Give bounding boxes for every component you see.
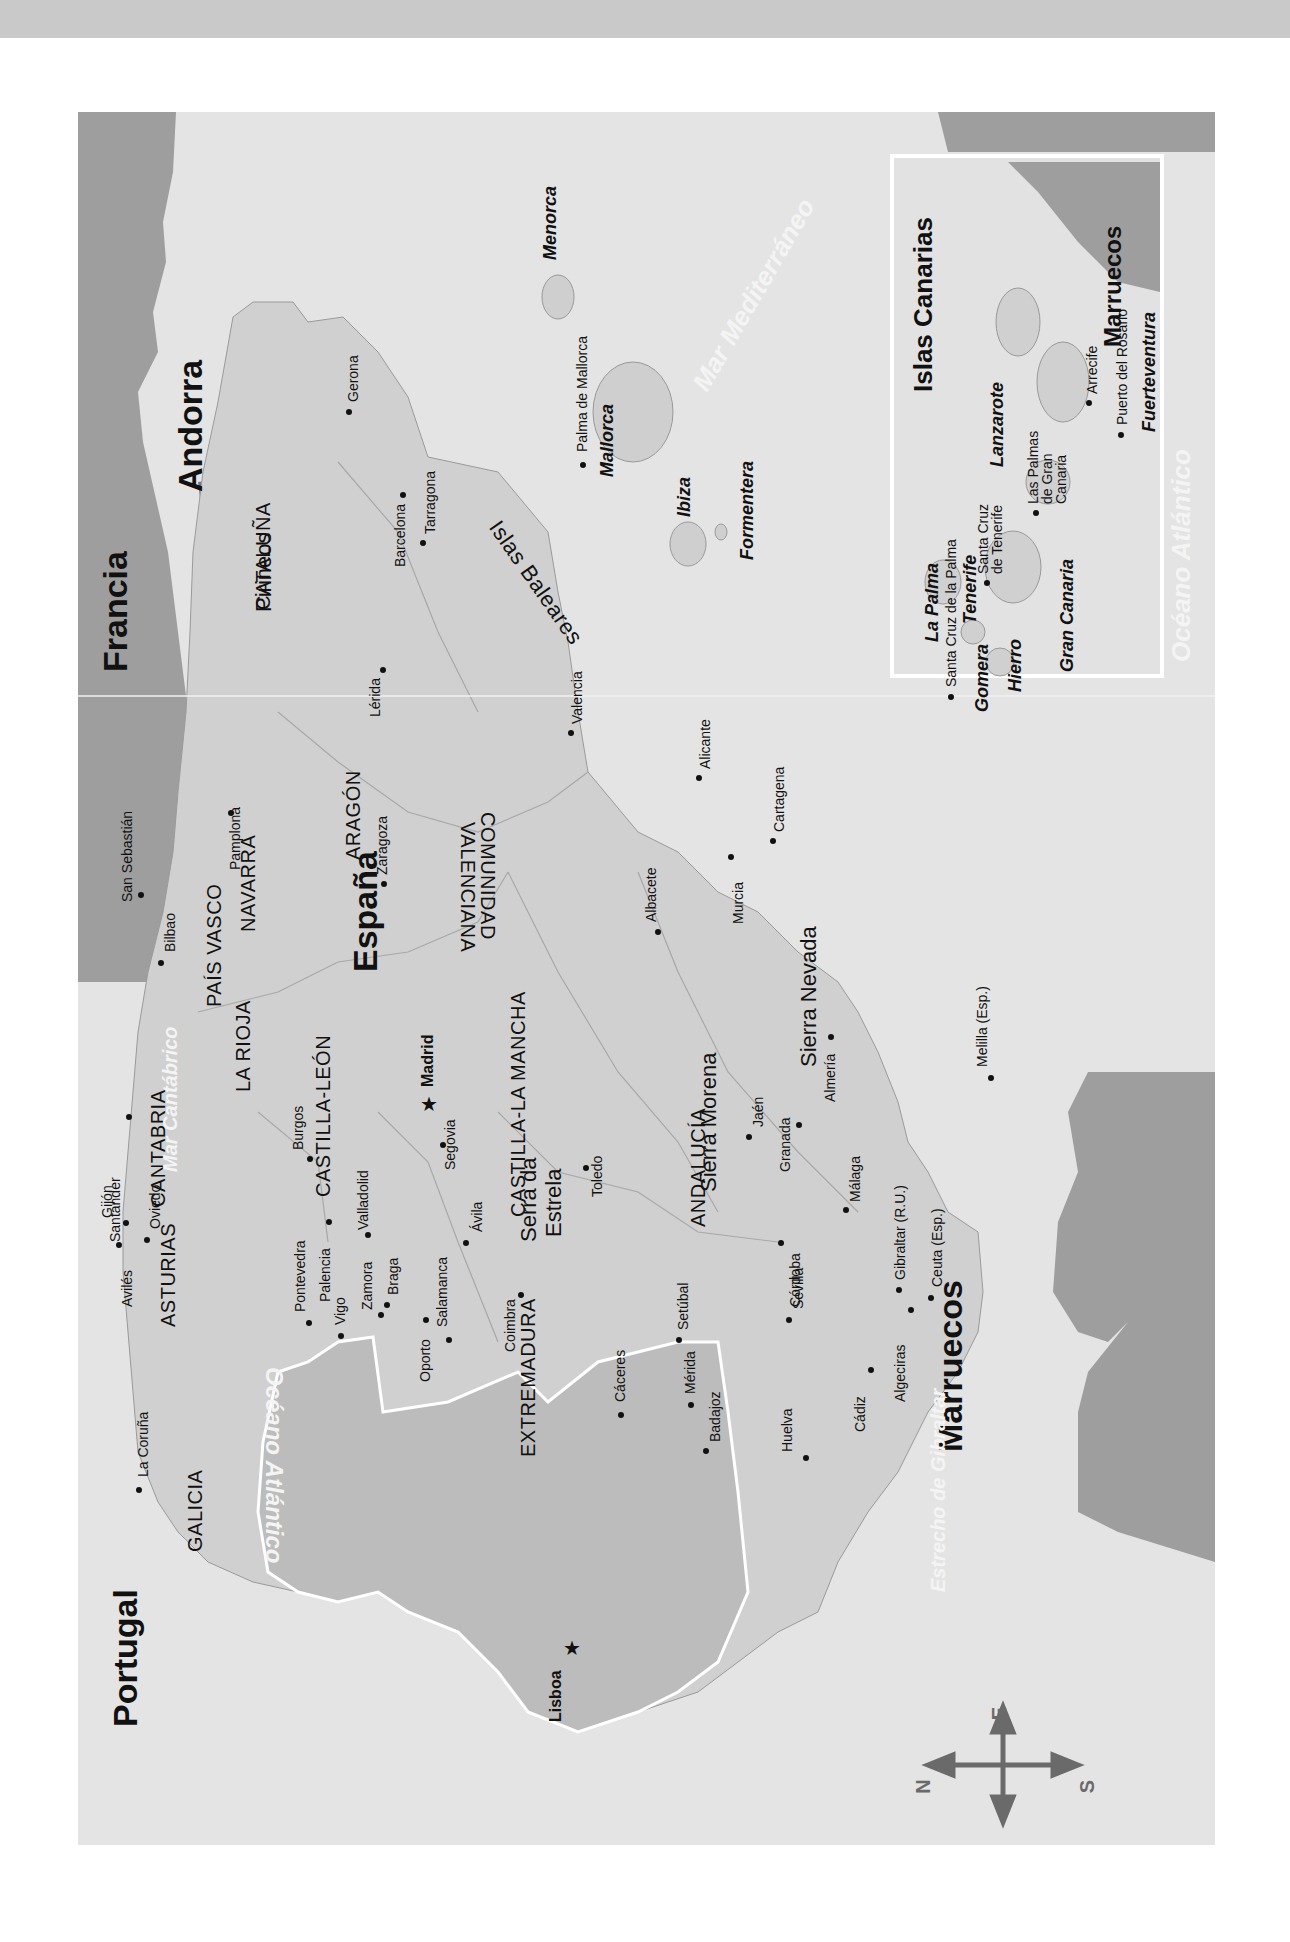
label-islas-canarias: Islas Canarias [910, 217, 936, 392]
label-santa-cruz-la-palma: Santa Cruz de la Palma [944, 539, 958, 687]
label-valladolid: Valladolid [356, 1170, 370, 1230]
dot-caceres [618, 1412, 624, 1418]
dot-coimbra [518, 1292, 524, 1298]
label-valencia: Valencia [570, 671, 584, 724]
label-aragon: ARAGÓN [343, 770, 363, 860]
dot-jaen [746, 1134, 752, 1140]
madrid-star-icon: ★ [420, 1094, 438, 1114]
label-tarragona: Tarragona [423, 471, 437, 534]
dot-sevilla [786, 1317, 792, 1323]
dot-malaga [843, 1207, 849, 1213]
label-sierra-morena: Sierra Morena [698, 1053, 720, 1192]
dot-zaragoza [381, 881, 387, 887]
label-la-coruna: La Coruña [136, 1412, 150, 1477]
label-gibraltar: Gibraltar (R.U.) [893, 1185, 907, 1280]
formentera-shape [715, 524, 727, 540]
dot-albacete [655, 929, 661, 935]
dot-granada [796, 1122, 802, 1128]
dot-oviedo [144, 1237, 150, 1243]
label-cadiz: Cádiz [853, 1396, 867, 1432]
dot-merida [688, 1402, 694, 1408]
label-salamanca: Salamanca [435, 1257, 449, 1327]
label-castilla-leon: CASTILLA-LEÓN [313, 1035, 333, 1197]
label-oviedo: Oviedo [148, 1185, 162, 1229]
menorca-shape [542, 275, 574, 319]
label-santa-cruz-tenerife-1: Santa Cruz [976, 504, 990, 574]
label-palma-de-mallorca: Palma de Mallorca [575, 336, 589, 452]
dot-gibraltar [896, 1287, 902, 1293]
label-ibiza: Ibiza [675, 477, 693, 517]
label-pais-vasco: PAÍS VASCO [204, 884, 224, 1007]
label-palencia: Palencia [318, 1248, 332, 1302]
label-sierra-nevada: Sierra Nevada [798, 926, 820, 1067]
dot-braga [384, 1302, 390, 1308]
label-france: Francia [98, 551, 132, 672]
label-toledo: Toledo [590, 1156, 604, 1197]
dot-san-sebastian [138, 892, 144, 898]
label-la-palma: La Palma [923, 563, 941, 642]
label-oceano-atlantico-inset: Océano Atlántico [1168, 449, 1194, 662]
label-la-rioja: LA RIOJA [233, 1000, 253, 1092]
label-gomera: Gomera [973, 644, 991, 712]
label-avila: Ávila [470, 1202, 484, 1232]
dot-cartagena [770, 838, 776, 844]
label-las-palmas-3: Canaria [1054, 455, 1068, 504]
compass-east-label: E [988, 1707, 1011, 1720]
label-gerona: Gerona [346, 355, 360, 402]
dot-badajoz [703, 1448, 709, 1454]
dot-zamora [378, 1312, 384, 1318]
label-pontevedra: Pontevedra [293, 1240, 307, 1312]
label-lanzarote: Lanzarote [988, 382, 1006, 467]
dot-la-coruna [136, 1487, 142, 1493]
dot-santa-cruz-la-palma [948, 694, 954, 700]
dot-gijon [123, 1220, 129, 1226]
label-aviles: Avilés [120, 1270, 134, 1307]
dot-palencia [326, 1219, 332, 1225]
label-caceres: Cáceres [613, 1350, 627, 1402]
label-braga: Braga [386, 1258, 400, 1295]
label-alicante: Alicante [698, 719, 712, 769]
morocco-top-shape [938, 112, 1215, 152]
top-scan-band [0, 0, 1290, 38]
dot-santander [126, 1114, 132, 1120]
label-albacete: Albacete [644, 868, 658, 922]
label-extremadura: EXTREMADURA [518, 1298, 538, 1457]
label-mallorca: Mallorca [598, 404, 616, 477]
label-hierro: Hierro [1006, 639, 1024, 692]
label-vigo: Vigo [333, 1297, 347, 1325]
label-lisboa: Lisboa [548, 1670, 564, 1722]
dot-arrecife [1086, 400, 1092, 406]
label-pirineos: Pirineos [253, 533, 275, 612]
label-bilbao: Bilbao [163, 913, 177, 952]
label-gran-canaria: Gran Canaria [1058, 559, 1076, 672]
label-valenciana: VALENCIANA [458, 822, 478, 952]
label-algeciras: Algeciras [893, 1344, 907, 1402]
label-las-palmas-1: Las Palmas [1026, 431, 1040, 504]
dot-puerto-del-rosario [1118, 432, 1124, 438]
dot-santa-cruz-tenerife [984, 580, 990, 586]
dot-setubal [676, 1337, 682, 1343]
dot-alicante [696, 775, 702, 781]
label-mar-cantabrico: Mar Cantábrico [160, 1026, 180, 1172]
dot-aviles [116, 1242, 122, 1248]
label-coimbra: Coimbra [503, 1299, 517, 1352]
ibiza-shape [670, 522, 706, 566]
label-asturias: ASTURIAS [158, 1223, 178, 1327]
label-badajoz: Badajoz [708, 1391, 722, 1442]
label-pamplona: Pamplona [228, 807, 242, 870]
label-zaragoza: Zaragoza [375, 816, 389, 875]
label-burgos: Burgos [291, 1106, 305, 1150]
label-andorra: Andorra [173, 360, 207, 492]
label-galicia: GALICIA [185, 1470, 205, 1552]
dot-algeciras [908, 1307, 914, 1313]
dot-cordoba [778, 1240, 784, 1246]
label-arrecife: Arrecife [1085, 346, 1099, 394]
dot-ceuta [928, 1295, 934, 1301]
label-oporto: Oporto [418, 1339, 432, 1382]
label-murcia: Murcia [731, 882, 745, 924]
label-barcelona: Barcelona [393, 504, 407, 567]
label-santa-cruz-tenerife-2: de Tenerife [990, 505, 1004, 574]
dot-salamanca [446, 1337, 452, 1343]
compass-south-label: S [1076, 1780, 1099, 1793]
dot-gerona [346, 409, 352, 415]
